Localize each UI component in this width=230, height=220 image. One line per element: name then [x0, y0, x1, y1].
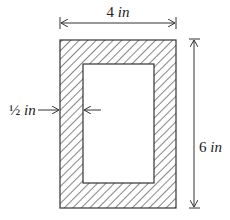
width-label: 4 in	[107, 4, 130, 20]
wall-thickness-label: ½ in	[9, 102, 36, 118]
inner-rectangle	[83, 64, 154, 183]
tube-cross-section-diagram: 4 in 6 in ½ in	[0, 0, 230, 220]
height-label: 6 in	[199, 139, 222, 155]
height-dimension: 6 in	[189, 39, 222, 208]
width-dimension: 4 in	[60, 4, 176, 29]
